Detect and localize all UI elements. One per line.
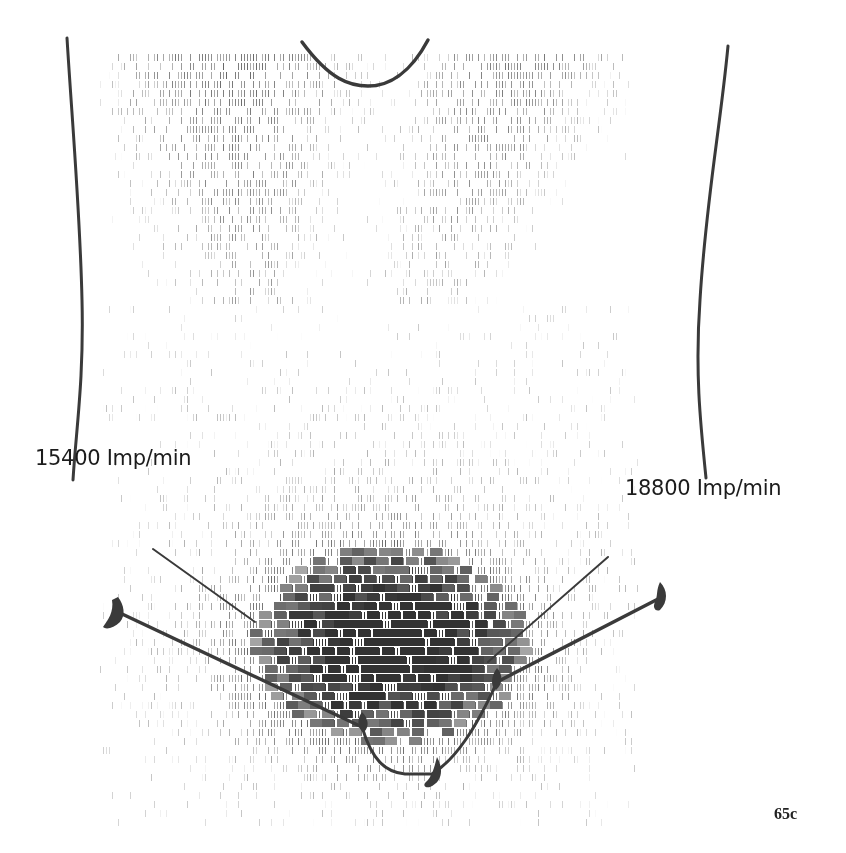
figure-number: 65c [774, 805, 797, 823]
left-marker-line [153, 549, 255, 622]
annotation-overlay [0, 0, 846, 853]
right-body-contour [698, 46, 728, 478]
left-count-label: 15400 Imp/min [35, 446, 191, 470]
right-arrow-shaft [497, 598, 660, 682]
right-count-label: 18800 Imp/min [625, 476, 781, 500]
scintigram-figure: 15400 Imp/min 18800 Imp/min 65c [0, 0, 846, 853]
right-marker-line [488, 557, 608, 662]
bottom-curve [362, 682, 497, 774]
neck-notch-contour [302, 40, 428, 86]
bottom-arrow-marker [424, 757, 441, 787]
left-body-contour [67, 38, 82, 480]
center-knot-left [358, 712, 367, 732]
left-arrow-marker [103, 597, 124, 628]
right-arrow-marker [654, 582, 666, 611]
left-arrow-shaft [120, 613, 362, 727]
center-knot-right [492, 668, 501, 690]
